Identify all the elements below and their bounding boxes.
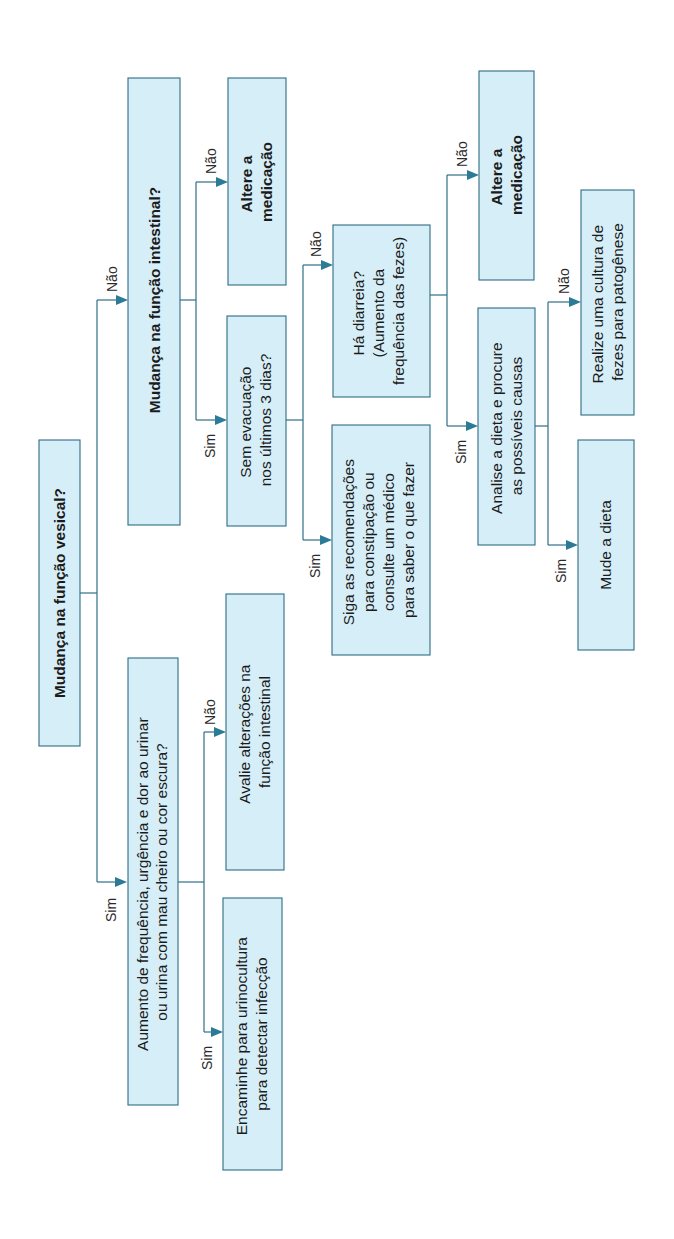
node-text-line: Aumento de frequência, urgência e dor ao… [134,717,151,1050]
node-text-line: fezes para patogênese [609,223,626,381]
node-analyze-diet: Analise a dieta e procure as possíveis c… [478,308,535,545]
node-text-line: consulte um médico [380,473,397,611]
node-evaluate-bowel-changes: Avalie alterações na função intestinal [226,594,284,870]
edge-label-yes: Sim [199,1046,215,1070]
node-change-diet: Mude a dieta [578,440,634,650]
arrow-icon [214,727,226,737]
node-text-line: Altere a [238,155,255,212]
node-text-line: Analise a dieta e procure [488,342,505,513]
edge-label-yes: Sim [553,559,569,583]
svg-text:Mudança na função vesical?: Mudança na função vesical? [51,488,68,698]
node-change-medication: Altere a medicação [479,71,534,280]
node-text-line: Há diarreia? [350,271,367,356]
node-urinary-symptoms-question: Aumento de frequência, urgência e dor ao… [128,658,178,1105]
flowchart: Não Sim Não Sim Não Sim Não Sim Não Sim … [0,0,674,1239]
node-text-line: Avalie alterações na [236,664,253,804]
arrow-icon [216,177,228,187]
edge-label-yes: Sim [202,434,218,458]
node-change-medication: Altere a medicação [228,78,286,285]
edge-label-no: Não [104,266,120,292]
node-refer-urine-culture: Encaminhe para urinocultura para detecta… [223,898,282,1170]
node-text: Mude a dieta [597,500,614,590]
arrow-icon [569,297,581,307]
arrow-icon [466,421,478,431]
node-text: Mudança na função intestinal? [146,187,163,414]
svg-text:Mude a dieta: Mude a dieta [597,500,614,590]
node-text-line: para detectar infecção [253,957,270,1110]
node-text-line: medicação [258,142,275,222]
node-text-line: (Aumento da [370,268,387,357]
node-text-line: Siga as recomendações [340,459,357,626]
edge-label-no: Não [202,699,218,725]
node-bladder-question: Mudança na função vesical? [39,440,80,746]
edge-label-yes: Sim [453,440,469,464]
node-text-line: para saber o que fazer [400,462,417,618]
arrow-icon [211,1027,223,1037]
arrow-icon [116,295,128,305]
node-text-line: frequência das fezes) [390,237,407,385]
edge-label-no: Não [454,141,470,167]
node-text-line: as possíveis causas [508,356,525,495]
arrow-icon [215,415,227,425]
node-text: Mudança na função vesical? [51,488,68,698]
arrow-icon [566,540,578,550]
node-text-line: Encaminhe para urinocultura [233,937,250,1136]
arrow-icon [115,877,127,887]
node-no-evacuation-question: Sem evacuação nos últimos 3 dias? [227,316,286,526]
node-text-line: medicação [508,135,525,215]
node-constipation-advice: Siga as recomendações para constipação o… [332,425,430,655]
node-text-line: função intestinal [256,676,273,788]
arrow-icon [321,260,333,270]
node-text-line: para constipação ou [360,472,377,612]
arrow-icon [467,170,479,180]
node-text-line: ou urina com mau cheiro ou cor escura? [153,743,170,1021]
edge-label-no: Não [556,268,572,294]
arrow-icon [320,535,332,545]
node-stool-culture: Realize uma cultura de fezes para patogê… [581,190,634,415]
edge-label-yes: Sim [103,898,119,922]
edge-label-no: Não [308,231,324,257]
edge-label-yes: Sim [307,554,323,578]
node-diarrhea-question: Há diarreia? (Aumento da frequência das … [333,225,430,397]
node-bowel-question: Mudança na função intestinal? [128,78,180,525]
node-text-line: Altere a [488,148,505,205]
edge-label-no: Não [203,148,219,174]
svg-text:Mudança na função intestinal?: Mudança na função intestinal? [146,187,163,414]
node-text-line: nos últimos 3 dias? [257,353,274,486]
node-text-line: Realize uma cultura de [589,225,606,384]
node-text-line: Sem evacuação [237,367,254,478]
